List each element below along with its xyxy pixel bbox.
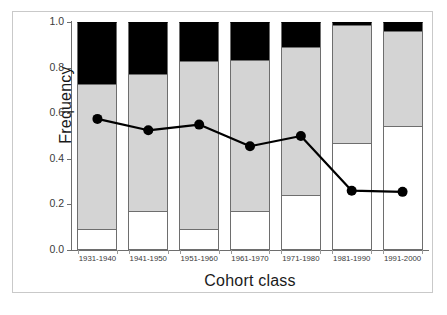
x-tick-mark [320, 250, 321, 254]
line-marker [194, 120, 204, 130]
x-tick-label: 1951-1960 [174, 254, 225, 264]
x-tick-mark [422, 250, 423, 254]
x-tick-label: 1931-1940 [72, 254, 123, 264]
y-tick-label: 0.4 [49, 152, 64, 165]
x-axis-line [71, 250, 429, 251]
line-path [97, 119, 402, 192]
x-tick-label: 1991-2000 [377, 254, 428, 264]
y-tick-label: 1.0 [49, 15, 64, 28]
line-marker [143, 125, 153, 135]
line-series-overlay [72, 22, 428, 250]
x-tick-mark [78, 250, 79, 254]
plot-area: 0.00.20.40.60.81.0 [72, 22, 428, 250]
y-tick-label: 0.8 [49, 61, 64, 74]
x-tick-mark [129, 250, 130, 254]
line-marker [245, 141, 255, 151]
x-tick-label: 1981-1990 [326, 254, 377, 264]
line-marker [92, 114, 102, 124]
y-tick-label: 0.0 [49, 243, 64, 256]
x-tick-mark [371, 250, 372, 254]
x-tick-mark [281, 250, 282, 254]
x-axis-title: Cohort class [72, 272, 428, 290]
x-tick-mark [180, 250, 181, 254]
x-tick-mark [269, 250, 270, 254]
x-tick-label: 1961-1970 [225, 254, 276, 264]
x-tick-mark [231, 250, 232, 254]
x-tick-label: 1971-1980 [275, 254, 326, 264]
y-tick-mark [67, 250, 72, 251]
y-tick-label: 0.6 [49, 106, 64, 119]
x-tick-label: 1941-1950 [123, 254, 174, 264]
x-tick-mark [332, 250, 333, 254]
x-tick-mark [117, 250, 118, 254]
line-marker [347, 186, 357, 196]
chart-figure: Frequency Cohort class 0.00.20.40.60.81.… [0, 0, 447, 315]
line-marker [398, 187, 408, 197]
x-tick-mark [168, 250, 169, 254]
line-marker [296, 131, 306, 141]
y-tick-label: 0.2 [49, 197, 64, 210]
x-tick-mark [383, 250, 384, 254]
x-tick-mark [219, 250, 220, 254]
